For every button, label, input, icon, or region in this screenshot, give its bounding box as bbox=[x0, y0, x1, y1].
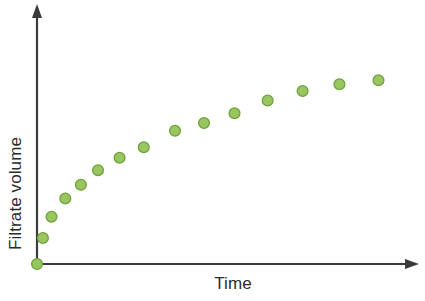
x-axis-label: Time bbox=[186, 274, 280, 294]
data-point bbox=[76, 179, 87, 190]
data-point bbox=[114, 152, 125, 163]
data-point bbox=[297, 86, 308, 97]
data-point bbox=[373, 75, 384, 86]
data-point bbox=[93, 165, 104, 176]
data-point bbox=[262, 95, 273, 106]
filtrate-volume-vs-time-chart: Filtrate volume Time bbox=[0, 0, 425, 301]
data-point bbox=[46, 211, 57, 222]
axes-group bbox=[32, 4, 419, 269]
data-point bbox=[229, 108, 240, 119]
data-points-group bbox=[32, 75, 384, 270]
data-point bbox=[60, 193, 71, 204]
data-point bbox=[32, 259, 43, 270]
data-point bbox=[138, 142, 149, 153]
arrow-up-icon bbox=[32, 4, 42, 18]
arrow-right-icon bbox=[405, 259, 419, 269]
data-point bbox=[170, 125, 181, 136]
y-axis-label: Filtrate volume bbox=[4, 50, 28, 250]
data-point bbox=[334, 79, 345, 90]
chart-canvas bbox=[0, 0, 425, 301]
data-point bbox=[38, 233, 49, 244]
data-point bbox=[199, 118, 210, 129]
